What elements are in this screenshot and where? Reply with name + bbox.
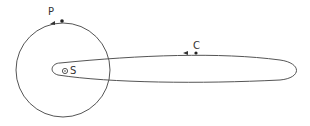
planet-dot [60,19,64,23]
sun-center-dot [64,70,66,72]
comet-orbit [52,55,296,82]
planet-label: P [48,7,54,17]
comet-label: C [193,41,200,51]
orbit-diagram [0,0,310,126]
comet-dot [194,51,197,54]
comet-arrow-icon [183,51,188,55]
sun-label: S [70,66,76,76]
